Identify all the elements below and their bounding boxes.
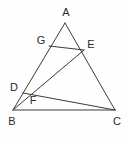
geometry-figure: AGEDFBC [0,0,129,144]
segments-group [13,23,115,110]
vertex-label-g: G [37,34,46,46]
segment-DC [23,93,115,110]
segment-BE [13,50,84,110]
vertex-label-c: C [113,115,121,127]
geometry-canvas: AGEDFBC [0,0,129,144]
vertex-label-e: E [87,38,94,50]
side-AC [65,23,115,110]
vertex-label-b: B [8,115,15,127]
vertex-label-d: D [10,81,18,93]
vertex-label-a: A [62,6,70,18]
vertex-label-f: F [30,94,37,106]
